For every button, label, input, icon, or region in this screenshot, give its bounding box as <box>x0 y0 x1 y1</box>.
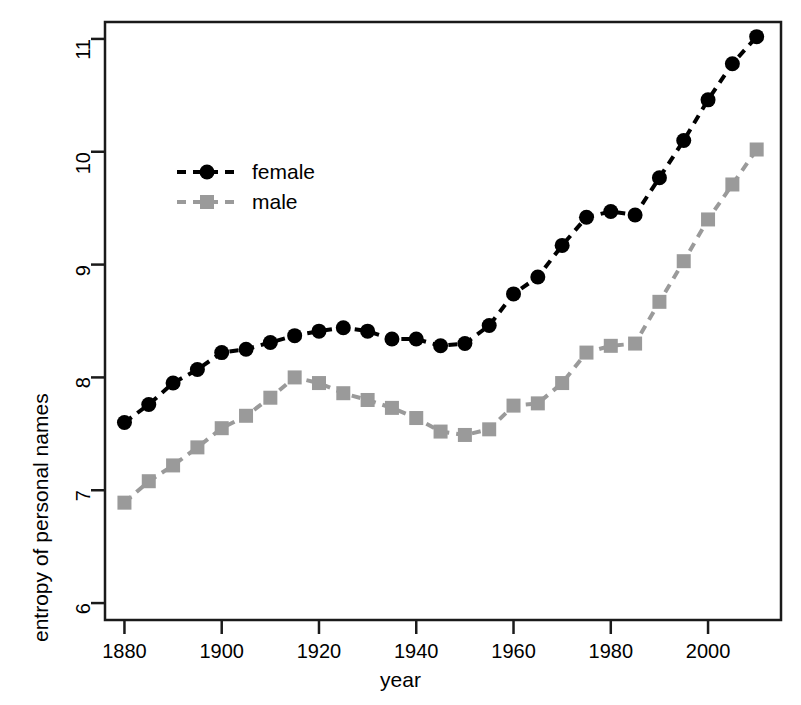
data-point-female <box>725 56 740 71</box>
data-point-female <box>676 133 691 148</box>
data-point-male <box>750 143 764 157</box>
data-point-female <box>166 376 181 391</box>
y-axis-title: entropy of personal names <box>26 393 56 642</box>
data-point-female <box>482 318 497 333</box>
x-tick-label: 1920 <box>297 640 342 663</box>
data-point-female <box>506 286 521 301</box>
data-point-female <box>287 328 302 343</box>
data-point-male <box>142 474 156 488</box>
y-tick-label: 7 <box>72 490 95 501</box>
x-tick-label: 1900 <box>199 640 244 663</box>
data-series-group <box>117 29 764 509</box>
x-tick-label: 2000 <box>686 640 731 663</box>
chart-figure: 1880190019201940196019802000 67891011 ye… <box>0 0 801 705</box>
data-point-female <box>336 320 351 335</box>
data-point-female <box>214 345 229 360</box>
data-point-male <box>628 337 642 351</box>
data-point-female <box>141 397 156 412</box>
x-axis-title: year <box>0 668 801 692</box>
x-tick-label: 1880 <box>102 640 147 663</box>
y-tick-label: 9 <box>72 265 95 276</box>
data-point-female <box>311 324 326 339</box>
data-point-male <box>288 370 302 384</box>
data-point-male <box>385 401 399 415</box>
data-point-male <box>434 425 448 439</box>
data-point-male <box>409 411 423 425</box>
data-point-male <box>336 386 350 400</box>
data-point-female <box>530 270 545 285</box>
data-point-male <box>677 254 691 268</box>
data-point-male <box>701 212 715 226</box>
x-tick-label: 1980 <box>589 640 634 663</box>
legend-marker-female <box>200 165 215 180</box>
data-point-male <box>190 440 204 454</box>
legend-marker-male <box>200 195 214 209</box>
y-tick-label: 6 <box>72 603 95 614</box>
data-point-male <box>312 376 326 390</box>
plot-border <box>105 22 781 620</box>
data-point-male <box>555 376 569 390</box>
data-point-male <box>263 391 277 405</box>
data-point-female <box>749 29 764 44</box>
data-point-female <box>360 324 375 339</box>
data-point-female <box>263 335 278 350</box>
line-chart-canvas <box>0 0 801 705</box>
y-axis-title-wrapper: entropy of personal names <box>26 2 56 642</box>
series-line-female <box>124 37 756 423</box>
plot-frame <box>105 22 781 620</box>
y-tick-label: 10 <box>72 152 95 174</box>
data-point-male <box>215 421 229 435</box>
data-point-male <box>507 399 521 413</box>
data-point-male <box>652 295 666 309</box>
data-point-female <box>603 204 618 219</box>
legend-label-female: female <box>252 160 315 184</box>
data-point-female <box>555 238 570 253</box>
data-point-male <box>239 409 253 423</box>
data-point-male <box>458 428 472 442</box>
legend-label-male: male <box>252 190 298 214</box>
legend-marks <box>177 165 237 210</box>
data-point-male <box>725 177 739 191</box>
x-tick-label: 1960 <box>491 640 536 663</box>
data-point-female <box>701 92 716 107</box>
data-point-male <box>579 346 593 360</box>
data-point-female <box>117 415 132 430</box>
data-point-female <box>628 207 643 222</box>
y-axis-ticks <box>91 39 105 603</box>
data-point-female <box>433 338 448 353</box>
data-point-female <box>652 170 667 185</box>
data-point-female <box>579 210 594 225</box>
y-tick-label: 8 <box>72 377 95 388</box>
x-axis-ticks <box>124 620 708 634</box>
series-line-male <box>124 150 756 503</box>
data-point-female <box>190 362 205 377</box>
x-tick-label: 1940 <box>394 640 439 663</box>
data-point-male <box>361 393 375 407</box>
data-point-male <box>604 339 618 353</box>
data-point-male <box>531 396 545 410</box>
data-point-male <box>166 458 180 472</box>
data-point-female <box>384 332 399 347</box>
y-tick-label: 11 <box>72 39 95 60</box>
data-point-female <box>457 336 472 351</box>
data-point-female <box>409 332 424 347</box>
data-point-male <box>482 422 496 436</box>
data-point-female <box>239 342 254 357</box>
data-point-male <box>117 496 131 510</box>
